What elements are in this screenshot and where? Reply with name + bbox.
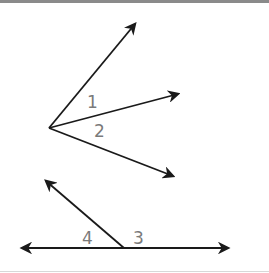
angle-label-3: 3 <box>133 228 144 248</box>
ray-middle <box>49 94 178 128</box>
diagram-frame: 12 43 <box>0 0 269 273</box>
bottom-angle-figure: 43 <box>22 181 228 248</box>
angle-label-4: 4 <box>82 228 93 248</box>
angle-label-1: 1 <box>87 92 98 112</box>
top-angle-figure: 12 <box>49 24 178 176</box>
angle-diagram: 12 43 <box>0 0 269 273</box>
angle-label-2: 2 <box>94 121 105 141</box>
ray-upper <box>49 24 135 128</box>
ray-lower <box>49 128 173 176</box>
